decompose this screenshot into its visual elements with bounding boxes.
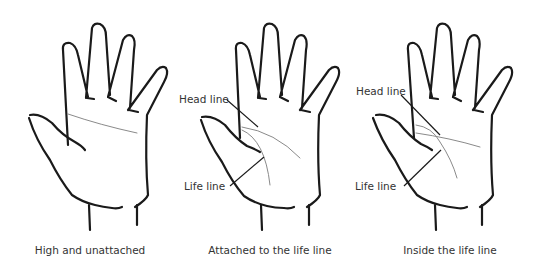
caption-inside-life-line: Inside the life line bbox=[360, 244, 540, 256]
panel-attached-life-line: Head line Life line Attached to the life… bbox=[180, 0, 360, 273]
hand-illustration-icon bbox=[180, 0, 360, 273]
life-line-label: Life line bbox=[184, 180, 225, 192]
hand-illustration-icon bbox=[0, 0, 180, 273]
life-line-label: Life line bbox=[355, 180, 396, 192]
head-line-label: Head line bbox=[356, 85, 406, 97]
panel-high-unattached: High and unattached bbox=[0, 0, 180, 273]
caption-attached-life-line: Attached to the life line bbox=[180, 244, 360, 256]
head-line-label: Head line bbox=[179, 93, 229, 105]
hand-illustration-icon bbox=[360, 0, 540, 273]
caption-high-unattached: High and unattached bbox=[0, 244, 180, 256]
panel-inside-life-line: Head line Life line Inside the life line bbox=[360, 0, 540, 273]
